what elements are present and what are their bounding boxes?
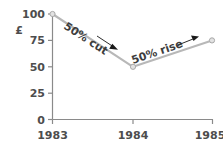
- y-axis-label-100: 100: [22, 8, 45, 21]
- x-axis-label-1983: 1983: [37, 129, 68, 142]
- y-axis-label-50: 50: [30, 61, 46, 74]
- annotation-label-cut: 50% cut: [61, 20, 110, 58]
- x-axis-label-1984: 1984: [118, 129, 149, 142]
- chart-canvas: £ 100 75 50 25 0 1983 1984 1985 50% cut …: [0, 0, 223, 149]
- data-point-1983: [50, 11, 55, 16]
- y-axis-unit-label: £: [15, 24, 23, 37]
- annotation-label-rise: 50% rise: [130, 37, 185, 67]
- y-axis-label-0: 0: [37, 114, 45, 127]
- y-axis-label-75: 75: [30, 34, 45, 47]
- data-point-1985: [209, 38, 214, 43]
- y-axis-label-25: 25: [30, 87, 45, 100]
- line-chart: £ 100 75 50 25 0 1983 1984 1985 50% cut …: [0, 0, 223, 149]
- x-axis-label-1985: 1985: [195, 129, 223, 142]
